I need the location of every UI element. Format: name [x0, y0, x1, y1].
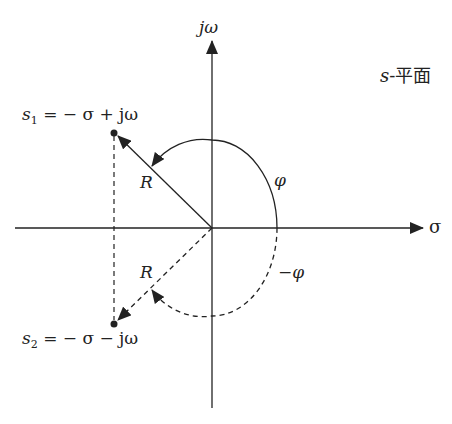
point-s2 [111, 321, 118, 328]
vector-r-upper [118, 136, 212, 228]
y-axis-label: jω [199, 19, 218, 36]
point-s1 [111, 130, 118, 137]
s2-expression: = − σ − jω [38, 328, 139, 348]
s1-symbol: s [22, 104, 31, 124]
r-label-lower: R [140, 264, 153, 281]
diagram-graphics [0, 0, 452, 424]
s-plane-diagram: jω σ s-平面 s1 = − σ + jω s2 = − σ − jω R … [0, 0, 452, 424]
vector-r-lower [118, 228, 212, 320]
plane-title: s-平面 [380, 67, 431, 85]
s1-subscript: 1 [31, 114, 38, 127]
angle-arc-negative [152, 228, 277, 317]
s1-expression: = − σ + jω [38, 104, 139, 124]
plane-title-rest: -平面 [389, 65, 431, 86]
angle-arc-positive [152, 139, 277, 228]
r-label-upper: R [140, 174, 153, 191]
neg-phi-label: −φ [278, 264, 304, 281]
phi-label: φ [274, 172, 286, 189]
s2-symbol: s [22, 328, 31, 348]
s2-subscript: 2 [31, 338, 38, 351]
s1-label: s1 = − σ + jω [22, 106, 138, 126]
x-axis-label: σ [429, 218, 441, 236]
plane-title-s: s [380, 65, 389, 86]
s2-label: s2 = − σ − jω [22, 330, 138, 350]
